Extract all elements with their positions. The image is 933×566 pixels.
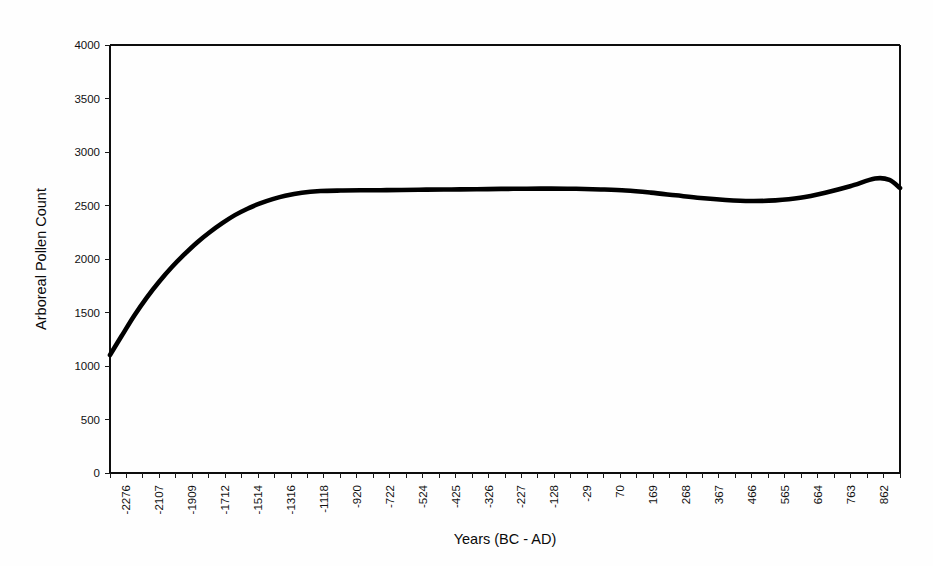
x-tick-label--920: -920	[351, 485, 363, 508]
x-tick-label--1712: -1712	[219, 485, 231, 514]
y-tick-label-500: 500	[81, 414, 100, 426]
x-tick-label--128: -128	[548, 485, 560, 508]
y-tick-label-2000: 2000	[74, 253, 100, 265]
y-tick-label-1000: 1000	[74, 360, 100, 372]
y-tick-label-4000: 4000	[74, 39, 100, 51]
x-tick-label--1118: -1118	[318, 485, 330, 513]
y-tick-label-2500: 2500	[74, 200, 100, 212]
x-tick-label--1514: -1514	[252, 484, 264, 514]
pollen-count-line-chart: 05001000150020002500300035004000 -2276-2…	[0, 0, 933, 566]
x-tick-label-565: 565	[779, 485, 791, 504]
y-tick-label-3500: 3500	[74, 93, 100, 105]
x-tick-label--425: -425	[450, 485, 462, 508]
x-tick-label-367: 367	[713, 485, 725, 504]
x-tick-label--227: -227	[515, 485, 527, 508]
y-tick-label-1500: 1500	[74, 307, 100, 319]
x-tick-label-862: 862	[878, 485, 890, 504]
x-axis-title: Years (BC - AD)	[454, 531, 557, 547]
y-axis-title: Arboreal Pollen Count	[33, 188, 49, 330]
y-tick-label-0: 0	[94, 467, 100, 479]
x-tick-label--326: -326	[483, 485, 495, 508]
x-tick-label-169: 169	[647, 485, 659, 504]
x-tick-label--29: -29	[581, 485, 593, 502]
x-tick-label--1909: -1909	[186, 485, 198, 514]
x-tick-label-664: 664	[812, 484, 824, 504]
x-tick-label--1316: -1316	[285, 485, 297, 514]
x-tick-label--524: -524	[417, 484, 429, 508]
x-tick-label--722: -722	[384, 485, 396, 508]
x-tick-label-763: 763	[845, 485, 857, 504]
x-tick-label--2107: -2107	[153, 485, 165, 514]
x-tick-label--2276: -2276	[120, 485, 132, 514]
chart-background	[0, 0, 933, 566]
x-tick-label-268: 268	[680, 485, 692, 504]
y-tick-label-3000: 3000	[74, 146, 100, 158]
x-tick-label-70: 70	[614, 485, 626, 498]
chart-figure: 05001000150020002500300035004000 -2276-2…	[0, 0, 933, 566]
x-tick-label-466: 466	[746, 485, 758, 504]
